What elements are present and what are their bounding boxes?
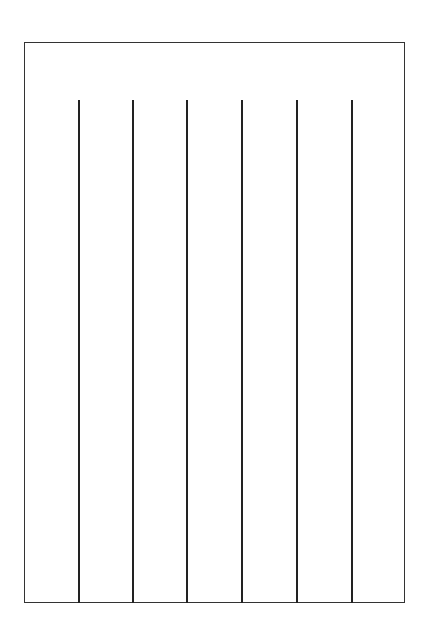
divider-line-5 xyxy=(296,100,298,603)
divider-line-1 xyxy=(78,100,80,603)
divider-line-2 xyxy=(132,100,134,603)
outer-frame xyxy=(24,42,405,603)
divider-line-3 xyxy=(186,100,188,603)
divider-line-6 xyxy=(351,100,353,603)
divider-line-4 xyxy=(241,100,243,603)
